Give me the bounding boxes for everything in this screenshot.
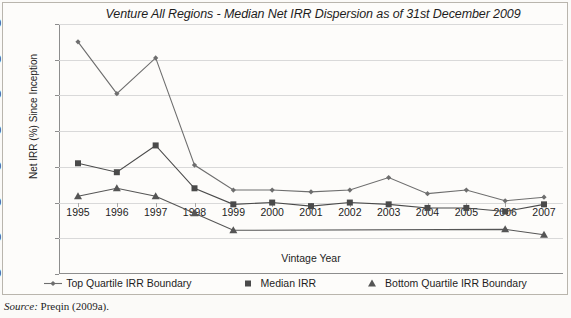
y-tick-label: 80 [0, 53, 1, 65]
data-point-marker [347, 187, 352, 192]
source-note: Source: Preqin (2009a). [4, 300, 109, 312]
data-point-marker [113, 184, 121, 191]
data-point-marker [425, 205, 431, 211]
legend-label: Top Quartile IRR Boundary [66, 277, 191, 289]
square-marker-icon [238, 278, 258, 289]
triangle-marker-icon [362, 278, 382, 289]
data-point-marker [308, 203, 314, 209]
data-point-marker [386, 201, 392, 207]
data-point-marker [368, 279, 376, 286]
y-tick-label: -20 [0, 231, 1, 243]
series-line [78, 145, 544, 211]
legend-label: Bottom Quartile IRR Boundary [385, 277, 527, 289]
chart-container: Venture All Regions - Median Net IRR Dis… [2, 2, 568, 295]
legend-item[interactable]: Top Quartile IRR Boundary [43, 277, 191, 289]
chart-title: Venture All Regions - Median Net IRR Dis… [63, 7, 563, 21]
series-line [78, 188, 544, 234]
data-point-marker [425, 191, 430, 196]
data-point-marker [191, 209, 199, 216]
chart-legend: Top Quartile IRR BoundaryMedian IRRBotto… [2, 277, 568, 289]
data-point-marker [386, 175, 391, 180]
y-tick-mark [55, 274, 59, 275]
x-axis-title: Vintage Year [59, 252, 563, 264]
data-point-marker [114, 169, 120, 175]
data-point-marker [503, 198, 508, 203]
data-point-marker [464, 187, 469, 192]
figure-page: Venture All Regions - Median Net IRR Dis… [0, 0, 571, 318]
y-tick-label: 60 [0, 88, 1, 100]
plot-area: 100806040200-20-40 199519961997199819992… [59, 24, 563, 274]
data-point-marker [230, 201, 236, 207]
data-point-marker [308, 189, 313, 194]
legend-item[interactable]: Bottom Quartile IRR Boundary [362, 277, 527, 289]
series-layer [59, 24, 563, 274]
y-axis-title: Net IRR (%) Since Inception [28, 27, 39, 207]
y-tick-label: -40 [0, 267, 1, 279]
diamond-marker-icon [43, 278, 63, 289]
source-text: Preqin (2009a). [41, 300, 109, 312]
data-point-marker [463, 205, 469, 211]
data-point-marker [245, 280, 251, 286]
legend-label: Median IRR [261, 277, 316, 289]
data-point-marker [153, 142, 159, 148]
data-point-marker [541, 201, 547, 207]
y-tick-label: 20 [0, 160, 1, 172]
data-point-marker [192, 185, 198, 191]
y-tick-label: 100 [0, 17, 1, 29]
data-point-marker [75, 160, 81, 166]
legend-item[interactable]: Median IRR [238, 277, 316, 289]
data-point-marker [269, 200, 275, 206]
data-point-marker [270, 187, 275, 192]
series-line [78, 42, 544, 201]
data-point-marker [502, 209, 508, 215]
source-prefix: Source: [4, 300, 38, 312]
data-point-marker [541, 195, 546, 200]
data-point-marker [347, 200, 353, 206]
y-tick-label: 40 [0, 124, 1, 136]
y-tick-label: 0 [0, 196, 1, 208]
data-point-marker [51, 280, 56, 285]
